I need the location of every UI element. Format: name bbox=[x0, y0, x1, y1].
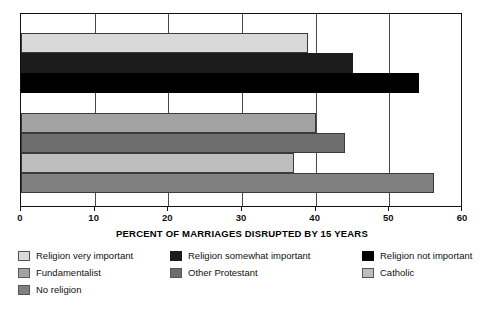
bar-religion-somewhat-important bbox=[21, 53, 353, 73]
bar-religion-very-important bbox=[21, 33, 308, 53]
tick-mark-30 bbox=[241, 207, 242, 211]
bar-no-religion bbox=[21, 173, 434, 193]
legend-item-other-protestant: Other Protestant bbox=[170, 267, 258, 278]
bar-religion-not-important bbox=[21, 73, 419, 93]
tick-label-30: 30 bbox=[236, 212, 247, 223]
legend-swatch-icon bbox=[18, 268, 30, 278]
legend-label: Religion very important bbox=[36, 250, 133, 261]
legend-item-fundamentalist: Fundamentalist bbox=[18, 267, 101, 278]
tick-mark-40 bbox=[315, 207, 316, 211]
bar-catholic bbox=[21, 153, 294, 173]
legend-swatch-icon bbox=[18, 251, 30, 261]
legend-item-catholic: Catholic bbox=[362, 267, 414, 278]
legend-item-no-religion: No religion bbox=[18, 284, 81, 295]
legend-swatch-icon bbox=[170, 251, 182, 261]
tick-mark-50 bbox=[388, 207, 389, 211]
bar-fundamentalist bbox=[21, 113, 316, 133]
tick-mark-0 bbox=[20, 207, 21, 211]
x-axis-title: PERCENT OF MARRIAGES DISRUPTED BY 15 YEA… bbox=[0, 228, 484, 239]
tick-label-60: 60 bbox=[457, 212, 468, 223]
bar-other-protestant bbox=[21, 133, 345, 153]
bar-series bbox=[21, 14, 461, 206]
legend-item-religion-not-important: Religion not important bbox=[362, 250, 472, 261]
legend-swatch-icon bbox=[18, 285, 30, 295]
chart-figure: 0102030405060 PERCENT OF MARRIAGES DISRU… bbox=[0, 0, 484, 315]
legend-label: Other Protestant bbox=[188, 267, 258, 278]
legend-swatch-icon bbox=[170, 268, 182, 278]
plot-area bbox=[20, 13, 462, 207]
legend-label: Religion somewhat important bbox=[188, 250, 311, 261]
tick-label-50: 50 bbox=[383, 212, 394, 223]
legend-item-religion-somewhat-important: Religion somewhat important bbox=[170, 250, 311, 261]
legend-label: Religion not important bbox=[380, 250, 472, 261]
tick-mark-10 bbox=[94, 207, 95, 211]
tick-mark-20 bbox=[167, 207, 168, 211]
legend-label: No religion bbox=[36, 284, 81, 295]
legend-item-religion-very-important: Religion very important bbox=[18, 250, 133, 261]
x-axis: 0102030405060 bbox=[20, 207, 462, 208]
legend-label: Fundamentalist bbox=[36, 267, 101, 278]
tick-label-20: 20 bbox=[162, 212, 173, 223]
tick-mark-60 bbox=[461, 207, 462, 211]
tick-label-10: 10 bbox=[88, 212, 99, 223]
chart-legend: Religion very importantFundamentalistNo … bbox=[0, 250, 484, 312]
legend-swatch-icon bbox=[362, 268, 374, 278]
legend-swatch-icon bbox=[362, 251, 374, 261]
tick-label-40: 40 bbox=[309, 212, 320, 223]
legend-label: Catholic bbox=[380, 267, 414, 278]
tick-label-0: 0 bbox=[17, 212, 22, 223]
